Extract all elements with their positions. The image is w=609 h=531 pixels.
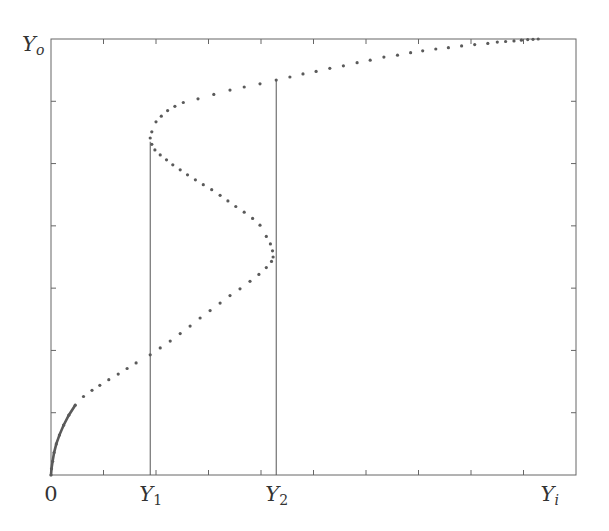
curve-point bbox=[342, 64, 345, 67]
curve-point bbox=[251, 217, 254, 220]
curve-point bbox=[135, 361, 138, 364]
curve-point bbox=[434, 47, 437, 50]
curve-point bbox=[98, 384, 101, 387]
y-axis-label: Yo bbox=[22, 34, 44, 57]
curve-point bbox=[154, 120, 157, 123]
curve-point bbox=[409, 51, 412, 54]
curve-point bbox=[228, 89, 231, 92]
curve-point bbox=[504, 40, 507, 43]
curve-point bbox=[166, 109, 169, 112]
curve-point bbox=[194, 178, 197, 181]
threshold-lines bbox=[150, 80, 276, 475]
x-tick-label-zero-text: 0 bbox=[44, 482, 57, 506]
curve-origin-segment bbox=[51, 405, 75, 475]
x-tick-label-y1: Y1 bbox=[139, 484, 162, 507]
curve-point bbox=[270, 260, 273, 263]
curve-point bbox=[199, 316, 202, 319]
curve-point bbox=[421, 49, 424, 52]
curve-point bbox=[189, 325, 192, 328]
curve-point bbox=[219, 194, 222, 197]
curve-point bbox=[210, 188, 213, 191]
curve-point bbox=[82, 395, 85, 398]
curve-point bbox=[356, 61, 359, 64]
curve-point bbox=[171, 163, 174, 166]
curve-point bbox=[269, 242, 272, 245]
x-axis-label-yi: Yi bbox=[541, 484, 559, 507]
curve-point bbox=[248, 280, 251, 283]
curve-point bbox=[74, 404, 77, 407]
curve-point bbox=[202, 183, 205, 186]
curve-point bbox=[149, 136, 152, 139]
curve-point bbox=[537, 37, 540, 40]
curve-point bbox=[159, 153, 162, 156]
curve-point bbox=[473, 43, 476, 46]
curve-point bbox=[531, 38, 534, 41]
curve-point bbox=[315, 70, 318, 73]
curve-point bbox=[288, 75, 291, 78]
curve-point bbox=[150, 130, 153, 133]
curve-point bbox=[209, 309, 212, 312]
curve-point bbox=[51, 460, 54, 463]
curve-point bbox=[169, 340, 172, 343]
x-tick-label-y1-sub: 1 bbox=[153, 492, 162, 508]
curve-point bbox=[50, 467, 53, 470]
curve-point bbox=[512, 39, 515, 42]
curve-point bbox=[173, 105, 176, 108]
curve-point bbox=[258, 82, 261, 85]
curve-point bbox=[149, 353, 152, 356]
curve-point bbox=[447, 46, 450, 49]
curve-point bbox=[55, 442, 58, 445]
curve-point bbox=[396, 54, 399, 57]
curve-point bbox=[90, 389, 93, 392]
curve-point bbox=[243, 211, 246, 214]
curve-point bbox=[257, 273, 260, 276]
x-tick-label-y1-base: Y bbox=[139, 482, 153, 506]
x-tick-label-y2-base: Y bbox=[265, 482, 279, 506]
curve-point bbox=[49, 473, 52, 476]
curve-point bbox=[186, 173, 189, 176]
curve-point bbox=[301, 72, 304, 75]
curve-point bbox=[182, 101, 185, 104]
curve-point bbox=[234, 205, 237, 208]
curve-point bbox=[196, 97, 199, 100]
hysteresis-chart bbox=[0, 0, 609, 531]
curve-point bbox=[150, 143, 153, 146]
curve-point bbox=[219, 302, 222, 305]
curve-point bbox=[53, 451, 56, 454]
curve-point bbox=[153, 148, 156, 151]
curve-point bbox=[265, 266, 268, 269]
curve-point bbox=[272, 255, 275, 258]
curve-point bbox=[520, 39, 523, 42]
curve-point bbox=[67, 414, 70, 417]
curve-point bbox=[179, 332, 182, 335]
x-tick-label-zero: 0 bbox=[44, 484, 57, 505]
curve-point bbox=[265, 235, 268, 238]
curve-point bbox=[226, 199, 229, 202]
curve-point bbox=[160, 115, 163, 118]
x-tick-label-y2: Y2 bbox=[265, 484, 288, 507]
curve-point bbox=[275, 79, 278, 82]
curve-point bbox=[212, 93, 215, 96]
curve-point bbox=[238, 287, 241, 290]
x-axis-label-yi-base: Y bbox=[541, 482, 555, 506]
curve-point bbox=[179, 168, 182, 171]
curve-point bbox=[369, 59, 372, 62]
curve-point bbox=[117, 373, 120, 376]
curve-point bbox=[243, 85, 246, 88]
curve-point bbox=[62, 424, 65, 427]
x-tick-label-y2-sub: 2 bbox=[279, 492, 288, 508]
curve-point bbox=[271, 249, 274, 252]
y-axis-label-base: Y bbox=[22, 32, 36, 56]
curve-point bbox=[107, 378, 110, 381]
curve-point bbox=[526, 38, 529, 41]
curve-point bbox=[165, 158, 168, 161]
curve-point bbox=[258, 224, 261, 227]
axis-ticks bbox=[51, 39, 576, 475]
curve-point bbox=[58, 434, 61, 437]
plot-frame bbox=[51, 39, 576, 475]
curve-point bbox=[496, 41, 499, 44]
curve-point bbox=[382, 56, 385, 59]
curve-point bbox=[486, 42, 489, 45]
x-axis-label-yi-sub: i bbox=[554, 492, 558, 508]
curve-points bbox=[49, 37, 539, 476]
